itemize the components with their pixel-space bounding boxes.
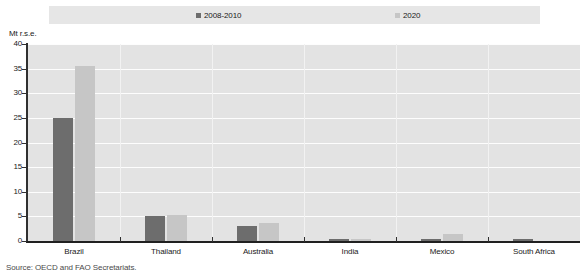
- y-axis-tick-label: 15: [0, 162, 22, 171]
- x-axis-category-label: Australia: [243, 247, 273, 256]
- y-axis-tick: [22, 44, 27, 45]
- y-axis-tick: [22, 216, 27, 217]
- y-axis-tick: [22, 118, 27, 119]
- bar[interactable]: [443, 234, 463, 241]
- category-divider: [120, 44, 121, 241]
- x-axis-category-label: Brazil: [64, 247, 83, 256]
- y-axis-tick: [22, 69, 27, 70]
- legend-label: 2008-2010: [204, 11, 241, 20]
- legend-swatch-icon: [395, 13, 400, 18]
- bar[interactable]: [259, 223, 279, 241]
- x-axis-category-label: India: [342, 247, 359, 256]
- bar[interactable]: [75, 66, 95, 241]
- y-axis-tick-label: 10: [0, 187, 22, 196]
- bar[interactable]: [53, 118, 73, 241]
- y-axis-tick-label: 20: [0, 138, 22, 147]
- y-axis-tick-label: 25: [0, 113, 22, 122]
- category-divider: [304, 44, 305, 241]
- plot-area: [28, 44, 580, 241]
- y-axis-tick-label: 35: [0, 64, 22, 73]
- x-axis-line: [26, 241, 580, 243]
- y-axis-tick: [22, 241, 27, 242]
- bar[interactable]: [145, 216, 165, 241]
- bar[interactable]: [167, 215, 187, 241]
- category-divider: [488, 44, 489, 241]
- x-axis-category-label: Mexico: [430, 247, 455, 256]
- x-axis-category-label: South Africa: [513, 247, 555, 256]
- legend-label: 2020: [403, 11, 420, 20]
- y-axis-tick: [22, 192, 27, 193]
- bar[interactable]: [237, 226, 257, 241]
- x-axis-tick: [212, 237, 213, 242]
- x-axis-tick: [120, 237, 121, 242]
- y-axis-tick-labels: 0510152025303540: [0, 0, 22, 271]
- x-axis-tick: [304, 237, 305, 242]
- legend-swatch-icon: [196, 13, 201, 18]
- y-axis-tick-label: 40: [0, 39, 22, 48]
- y-axis-tick-label: 0: [0, 236, 22, 245]
- category-divider: [212, 44, 213, 241]
- source-note: Source: OECD and FAO Secretariats.: [6, 263, 136, 271]
- x-axis-tick: [396, 237, 397, 242]
- y-axis-tick-label: 30: [0, 88, 22, 97]
- y-axis-tick: [22, 93, 27, 94]
- x-axis-tick: [488, 237, 489, 242]
- x-axis-category-label: Thailand: [151, 247, 181, 256]
- legend-item-2020[interactable]: 2020: [395, 9, 420, 21]
- y-axis-tick: [22, 143, 27, 144]
- y-axis-tick: [22, 167, 27, 168]
- legend-item-2008-2010[interactable]: 2008-2010: [196, 9, 241, 21]
- chart-legend: 2008-2010 2020: [49, 6, 540, 24]
- y-axis-tick-label: 5: [0, 211, 22, 220]
- category-divider: [396, 44, 397, 241]
